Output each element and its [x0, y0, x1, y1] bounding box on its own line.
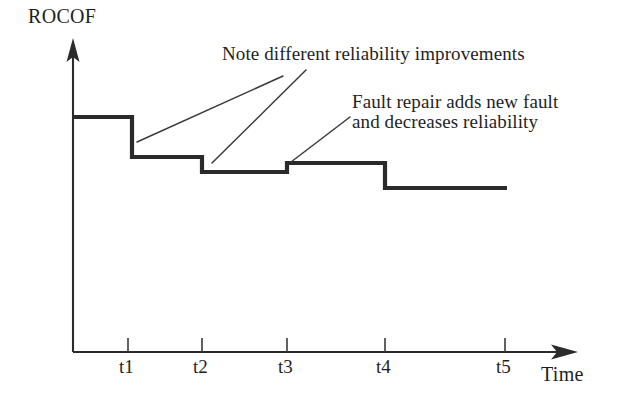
leader-line-fault-repair-t3 [291, 117, 350, 162]
annotation-leader-lines [137, 70, 350, 163]
tick-label-t5: t5 [496, 357, 511, 377]
y-axis [67, 38, 80, 352]
tick-label-t3: t3 [278, 357, 293, 377]
y-axis-title: ROCOF [28, 6, 96, 27]
tick-label-t2: t2 [193, 357, 208, 377]
leader-line-improvement-t1 [137, 76, 283, 142]
tick-label-t4: t4 [376, 357, 391, 377]
annotation-fault-repair: Fault repair adds new fault and decrease… [352, 92, 558, 132]
annotation-fault-repair-line-1: Fault repair adds new fault [352, 91, 558, 112]
leader-line-improvement-t2 [212, 70, 306, 163]
x-axis-title: Time [541, 364, 584, 385]
x-axis-ticks [128, 338, 505, 352]
rocof-step-figure: ROCOF Time t1 t2 t3 t4 t5 Note different… [0, 0, 625, 401]
tick-label-t1: t1 [119, 357, 134, 377]
annotation-fault-repair-line-2: and decreases reliability [352, 112, 558, 132]
annotation-reliability-improvements: Note different reliability improvements [222, 44, 525, 64]
